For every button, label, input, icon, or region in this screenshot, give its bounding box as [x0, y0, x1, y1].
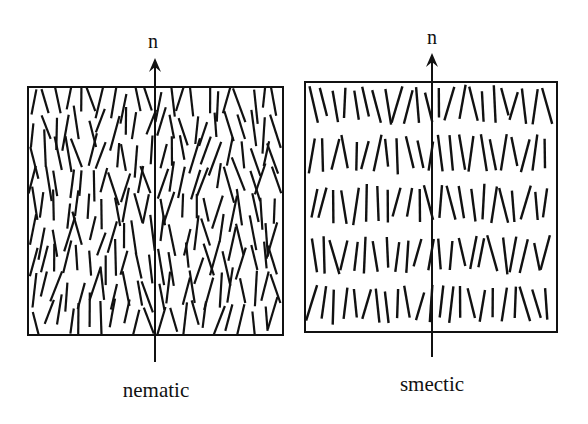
smectic-label: smectic — [400, 372, 464, 397]
smectic-panel — [305, 53, 557, 357]
nematic-panel — [28, 58, 283, 362]
smectic-director-label: n — [427, 26, 437, 49]
nematic-label: nematic — [123, 378, 189, 403]
nematic-director-label: n — [148, 30, 158, 53]
smectic-molecules — [306, 85, 552, 325]
liquid-crystal-diagram — [0, 0, 588, 424]
